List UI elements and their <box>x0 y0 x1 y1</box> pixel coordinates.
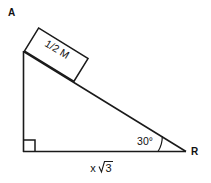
diagram-canvas: 1/2 M 30° x 3 <box>0 0 211 183</box>
base-label-radicand: 3 <box>105 162 111 174</box>
vertex-label-r: R <box>191 147 198 157</box>
base-label-x: x <box>90 162 96 174</box>
triangle <box>23 51 186 152</box>
base-length-label: x 3 <box>90 162 113 175</box>
angle-arc <box>158 136 162 151</box>
angle-label: 30° <box>137 135 153 147</box>
hypotenuse-incline <box>24 52 187 152</box>
vertex-label-a: A <box>8 8 15 18</box>
right-angle-marker <box>24 140 36 152</box>
